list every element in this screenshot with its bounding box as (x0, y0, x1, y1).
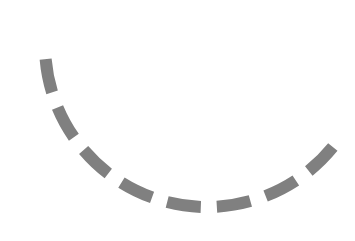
loading-spinner-icon (0, 0, 355, 241)
spinner-arc (46, 59, 335, 207)
